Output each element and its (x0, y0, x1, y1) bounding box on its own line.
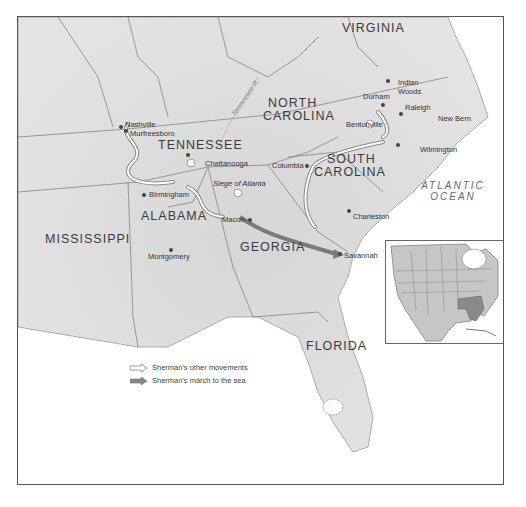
city-raleigh: Raleigh (405, 104, 430, 112)
battle-label-siege-of-atlanta: Siege of Atlanta (213, 180, 266, 188)
legend-label-other-movements: Sherman's other movements (152, 363, 248, 372)
city-birmingham: Birmingham (149, 191, 189, 199)
city-savannah: Savannah (344, 252, 378, 260)
legend-item-march-to-sea: Sherman's march to the sea (130, 375, 248, 386)
city-bentonville: Bentonville (346, 121, 383, 129)
city-murfreesboro: Murfreesboro (130, 130, 175, 138)
city-montgomery: Montgomery (148, 253, 190, 261)
city-new-bern: New Bern (438, 115, 471, 123)
state-label-alabama: ALABAMA (141, 210, 207, 223)
solid-arrow-icon (130, 377, 148, 385)
map-legend: Sherman's other movements Sherman's marc… (130, 362, 248, 388)
city-durham: Durham (363, 93, 390, 101)
state-label-virginia: VIRGINIA (342, 22, 405, 35)
city-indian-woods-2: Woods (398, 88, 421, 96)
legend-label-march-to-sea: Sherman's march to the sea (152, 376, 246, 385)
north-america-inset (386, 241, 503, 343)
outline-arrow-icon (130, 364, 148, 372)
state-label-florida: FLORIDA (306, 340, 367, 353)
ocean-label-line2: OCEAN (418, 192, 488, 202)
city-nashville: Nashville (125, 121, 155, 129)
state-label-mississippi: MISSISSIPPI (45, 233, 130, 246)
map-frame: VIRGINIA NORTH CAROLINA TENNESSEE SOUTH … (17, 16, 504, 485)
state-label-south-carolina-2: CAROLINA (314, 166, 386, 179)
ocean-label: ATLANTIC OCEAN (418, 181, 488, 202)
state-label-tennessee: TENNESSEE (158, 139, 243, 152)
city-chattanooga: Chattanooga (205, 160, 248, 168)
legend-item-other-movements: Sherman's other movements (130, 362, 248, 373)
state-label-south-carolina-1: SOUTH (327, 153, 376, 166)
city-macon: Macon (222, 216, 245, 224)
state-label-north-carolina-1: NORTH (268, 97, 317, 110)
city-columbia: Columbia (272, 162, 304, 170)
state-label-north-carolina-2: CAROLINA (263, 110, 335, 123)
city-wilmington: Wilmington (420, 146, 457, 154)
inset-locator-map (385, 240, 504, 344)
city-indian-woods-1: Indian (398, 79, 418, 87)
city-charleston: Charleston (353, 213, 389, 221)
ocean-label-line1: ATLANTIC (418, 181, 488, 191)
state-label-georgia: GEORGIA (240, 241, 305, 254)
